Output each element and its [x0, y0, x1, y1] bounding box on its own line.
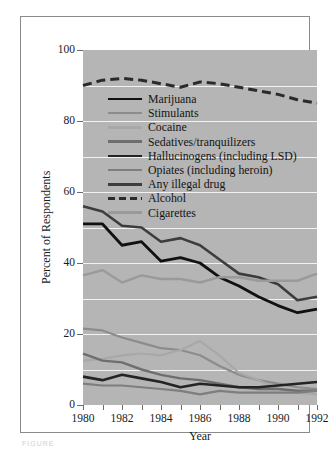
x-tick [103, 405, 104, 410]
y-tick-label: 20 [25, 328, 75, 340]
legend-label: Marijuana [148, 93, 196, 105]
figure-container: 020406080100 198019821984198619881990199… [0, 0, 332, 452]
series-line [83, 270, 317, 282]
legend-item: Marijuana [108, 92, 297, 106]
legend-swatch [108, 211, 142, 213]
x-tick [200, 405, 201, 410]
legend-item: Any illegal drug [108, 177, 297, 191]
legend-label: Hallucinogens (including LSD) [148, 150, 297, 162]
x-tick-label: 1982 [100, 412, 144, 424]
x-tick-label: 1984 [139, 412, 183, 424]
legend-label: Sedatives/tranquilizers [148, 136, 255, 148]
x-tick [220, 405, 221, 410]
x-tick [181, 405, 182, 410]
x-tick-label: 1992 [295, 412, 332, 424]
x-axis-title: Year [83, 429, 317, 444]
x-tick [259, 405, 260, 410]
chart-legend: MarijuanaStimulantsCocaineSedatives/tran… [108, 92, 297, 220]
legend-swatch [108, 155, 142, 158]
y-axis-title: Percent of Respondents [39, 171, 54, 284]
legend-item: Opiates (including heroin) [108, 163, 297, 177]
legend-item: Stimulants [108, 106, 297, 120]
x-tick [317, 405, 318, 410]
x-tick [278, 405, 279, 410]
legend-label: Any illegal drug [148, 178, 225, 190]
legend-item: Cocaine [108, 120, 297, 134]
x-tick-label: 1988 [217, 412, 261, 424]
x-tick-label: 1990 [256, 412, 300, 424]
legend-item: Cigarettes [108, 206, 297, 220]
legend-item: Alcohol [108, 191, 297, 205]
x-tick [83, 405, 84, 410]
plot-area: 020406080100 198019821984198619881990199… [83, 50, 317, 405]
x-tick [298, 405, 299, 410]
x-tick-label: 1980 [61, 412, 105, 424]
y-tick-label: 80 [25, 115, 75, 127]
legend-swatch [108, 98, 142, 101]
legend-swatch [108, 169, 142, 171]
legend-item: Sedatives/tranquilizers [108, 135, 297, 149]
legend-item: Hallucinogens (including LSD) [108, 149, 297, 163]
x-tick [122, 405, 123, 410]
legend-swatch [108, 183, 142, 186]
x-tick-label: 1986 [178, 412, 222, 424]
legend-label: Stimulants [148, 107, 198, 119]
legend-swatch [108, 140, 142, 142]
x-tick [142, 405, 143, 410]
x-tick [161, 405, 162, 410]
figure-frame: 020406080100 198019821984198619881990199… [20, 16, 310, 433]
x-tick [239, 405, 240, 410]
legend-label: Alcohol [148, 192, 186, 204]
legend-label: Cigarettes [148, 207, 196, 219]
series-line [83, 206, 317, 300]
legend-swatch [108, 197, 142, 200]
legend-swatch [108, 126, 142, 128]
legend-swatch [108, 112, 142, 114]
legend-label: Opiates (including heroin) [148, 164, 273, 176]
series-line [83, 224, 317, 313]
legend-label: Cocaine [148, 121, 187, 133]
y-tick-label: 100 [25, 44, 75, 56]
figure-caption: FIGURE [22, 440, 54, 447]
y-tick-label: 0 [25, 399, 75, 411]
